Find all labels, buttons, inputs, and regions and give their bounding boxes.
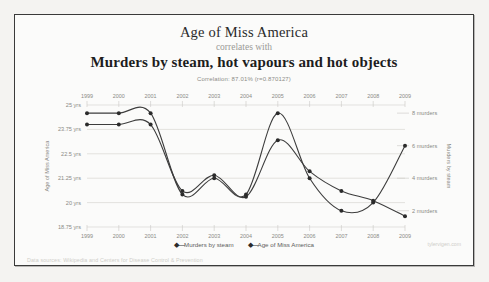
x-axis-bottom-tick: 2002 bbox=[176, 233, 188, 239]
x-axis-bottom-tick: 2000 bbox=[113, 233, 125, 239]
x-axis-bottom-tick: 2001 bbox=[145, 233, 157, 239]
legend-item-1[interactable]: ◆—Age of Miss America bbox=[248, 241, 314, 248]
data-sources-note: Data sources: Wikipedia and Centers for … bbox=[27, 257, 203, 263]
y-axis-right-tick: 4 murders bbox=[412, 175, 437, 181]
data-point bbox=[339, 189, 343, 193]
data-point bbox=[149, 123, 153, 127]
data-point bbox=[85, 123, 89, 127]
x-axis-top-tick: 2002 bbox=[176, 93, 188, 99]
x-axis-bottom-tick: 2008 bbox=[367, 233, 379, 239]
x-axis-top-tick: 2007 bbox=[335, 93, 347, 99]
data-point bbox=[403, 214, 407, 218]
data-point bbox=[117, 111, 121, 115]
y-axis-left-tick: 25 yrs bbox=[66, 102, 81, 108]
x-axis-bottom-tick: 2005 bbox=[272, 233, 284, 239]
data-point bbox=[276, 111, 280, 115]
site-watermark: tylervigen.com bbox=[428, 241, 461, 247]
x-axis-bottom-tick: 2009 bbox=[399, 233, 411, 239]
line-chart: 25 yrs23.75 yrs22.5 yrs21.25 yrs20 yrs18… bbox=[15, 15, 475, 267]
x-axis-top-tick: 1999 bbox=[81, 93, 93, 99]
chart-legend: ◆—Murders by steam◆—Age of Miss America bbox=[15, 241, 473, 249]
x-axis-top-tick: 2009 bbox=[399, 93, 411, 99]
y-axis-left-tick: 20 yrs bbox=[66, 200, 81, 206]
data-point bbox=[149, 111, 153, 115]
data-point bbox=[308, 169, 312, 173]
data-point bbox=[244, 195, 248, 199]
y-axis-left-tick: 22.5 yrs bbox=[61, 151, 81, 157]
data-point bbox=[308, 176, 312, 180]
legend-marker-icon: ◆— bbox=[248, 241, 257, 249]
x-axis-bottom-tick: 2006 bbox=[304, 233, 316, 239]
series-line-1 bbox=[87, 120, 405, 217]
x-axis-top-tick: 2000 bbox=[113, 93, 125, 99]
y-axis-right-tick: 6 murders bbox=[412, 143, 437, 149]
data-point bbox=[371, 199, 375, 203]
x-axis-bottom-tick: 2007 bbox=[335, 233, 347, 239]
x-axis-top-tick: 2005 bbox=[272, 93, 284, 99]
legend-item-label: Murders by steam bbox=[184, 241, 234, 248]
data-point bbox=[403, 144, 407, 148]
legend-marker-icon: ◆— bbox=[174, 241, 183, 249]
y-axis-right-tick: 8 murders bbox=[412, 110, 437, 116]
y-axis-left-tick: 18.75 yrs bbox=[58, 224, 81, 230]
x-axis-bottom-tick: 2003 bbox=[208, 233, 220, 239]
x-axis-top-tick: 2004 bbox=[240, 93, 252, 99]
y-axis-left-title: Age of Miss America bbox=[44, 140, 50, 192]
y-axis-left-tick: 23.75 yrs bbox=[58, 126, 81, 132]
chart-card: Age of Miss America correlates with Murd… bbox=[14, 14, 474, 266]
legend-item-0[interactable]: ◆—Murders by steam bbox=[174, 241, 234, 248]
legend-item-label: Age of Miss America bbox=[258, 241, 314, 248]
x-axis-bottom-tick: 2004 bbox=[240, 233, 252, 239]
data-point bbox=[85, 111, 89, 115]
x-axis-bottom-tick: 1999 bbox=[81, 233, 93, 239]
data-point bbox=[339, 209, 343, 213]
x-axis-top-tick: 2001 bbox=[145, 93, 157, 99]
plot-area: 25 yrs23.75 yrs22.5 yrs21.25 yrs20 yrs18… bbox=[15, 15, 475, 267]
x-axis-top-tick: 2008 bbox=[367, 93, 379, 99]
y-axis-right-title: Murders by steam bbox=[446, 144, 452, 189]
data-point bbox=[180, 192, 184, 196]
x-axis-top-tick: 2003 bbox=[208, 93, 220, 99]
x-axis-top-tick: 2006 bbox=[304, 93, 316, 99]
data-point bbox=[180, 189, 184, 193]
data-point bbox=[117, 123, 121, 127]
data-point bbox=[276, 138, 280, 142]
y-axis-right-tick: 2 murders bbox=[412, 208, 437, 214]
y-axis-left-tick: 21.25 yrs bbox=[58, 175, 81, 181]
data-point bbox=[212, 173, 216, 177]
